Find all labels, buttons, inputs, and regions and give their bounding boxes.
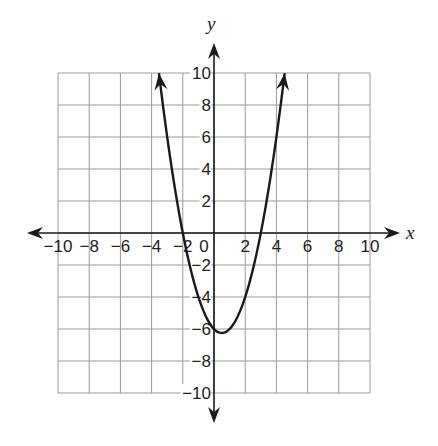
x-tick-label: −6 [111,237,130,256]
x-tick-label: 0 [199,237,208,256]
x-tick-labels: −10−8−6−4−20246810 [44,237,380,256]
x-tick-label: −8 [80,237,99,256]
x-tick-label: 2 [240,237,249,256]
y-tick-label: 10 [192,64,211,83]
y-axis-label: y [205,13,216,34]
x-tick-label: −4 [142,237,161,256]
y-tick-label: 2 [202,192,211,211]
x-tick-label: 6 [303,237,312,256]
series [155,73,290,333]
y-tick-label: −2 [192,256,211,275]
y-tick-label: 8 [202,96,211,115]
y-tick-label: −8 [192,352,211,371]
x-tick-label: −2 [173,237,192,256]
parabola-curve [159,73,285,333]
x-axis-label: x [405,222,415,243]
axes [27,43,400,423]
x-tick-label: −10 [44,237,73,256]
x-tick-label: 8 [334,237,343,256]
y-tick-label: −10 [182,384,211,403]
y-tick-label: 4 [202,160,211,179]
y-tick-label: 6 [202,128,211,147]
parabola-graph: −10−8−6−4−20246810 108642−2−4−6−8−10 x y [0,0,438,446]
x-tick-label: 10 [361,237,380,256]
x-tick-label: 4 [272,237,281,256]
